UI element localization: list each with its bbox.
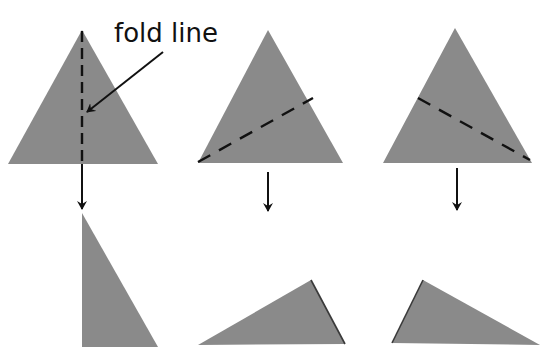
triangle-folded-result [392,280,540,345]
triangle-original [383,28,532,163]
triangle-original [198,30,343,163]
panel-diagonal-fold-up-right [198,30,345,345]
triangle-folded-result [82,213,158,347]
panel-vertical-fold [8,30,158,347]
triangle-folded-result [198,280,345,345]
fold-diagram [0,0,560,347]
panel-diagonal-fold-down-right [383,28,540,345]
fold-line-label: fold line [114,18,218,48]
